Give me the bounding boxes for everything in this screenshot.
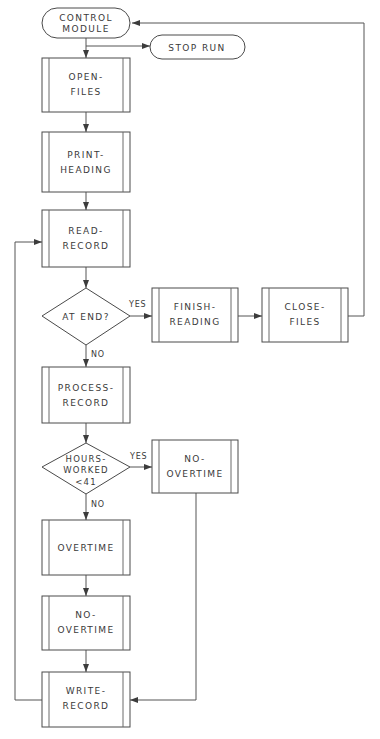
hours-worked-label-line2: WORKED xyxy=(63,465,109,475)
arrowhead-control-to-open xyxy=(83,50,89,58)
close-files-label-line2: FILES xyxy=(289,317,320,327)
node-control-module[interactable]: CONTROL MODULE xyxy=(42,8,130,38)
connector-write-to-read xyxy=(15,242,42,700)
close-files-label-line1: CLOSE- xyxy=(284,302,325,312)
node-process-record[interactable]: PROCESS- RECORD xyxy=(42,367,130,423)
no-overtime-right-shape xyxy=(152,440,238,493)
arrowhead-atend-no xyxy=(83,359,89,367)
arrowhead-close-to-control xyxy=(132,20,140,26)
print-heading-label-line2: HEADING xyxy=(60,165,112,175)
node-open-files[interactable]: OPEN- FILES xyxy=(42,58,130,112)
node-at-end[interactable]: AT END? xyxy=(42,288,130,345)
node-read-record[interactable]: READ- RECORD xyxy=(42,210,130,267)
process-record-shape xyxy=(42,367,130,423)
close-files-shape xyxy=(262,288,348,342)
arrowhead-atend-yes xyxy=(144,313,152,319)
write-record-label-line2: RECORD xyxy=(63,701,110,711)
no-overtime-right-label-line2: OVERTIME xyxy=(166,469,223,479)
arrowhead-overtime-to-nolower xyxy=(83,588,89,596)
control-module-label-line2: MODULE xyxy=(62,24,109,34)
flowchart-svg: CONTROL MODULE STOP RUN OPEN- FILES PRIN… xyxy=(0,0,380,739)
node-print-heading[interactable]: PRINT- HEADING xyxy=(42,132,130,192)
node-hours-worked[interactable]: HOURS- WORKED <41 xyxy=(42,443,130,494)
at-end-label: AT END? xyxy=(62,312,110,322)
connector-close-to-control xyxy=(132,23,364,316)
at-end-no-label: NO xyxy=(91,350,105,359)
hours-worked-label-line3: <41 xyxy=(75,477,97,487)
arrowhead-noright-to-write xyxy=(130,697,138,703)
hours-worked-label-line1: HOURS- xyxy=(66,454,107,464)
print-heading-label-line1: PRINT- xyxy=(67,150,104,160)
open-files-label-line1: OPEN- xyxy=(68,72,103,82)
arrowhead-nolower-to-write xyxy=(83,664,89,672)
overtime-label: OVERTIME xyxy=(57,543,114,553)
node-no-overtime-right[interactable]: NO- OVERTIME xyxy=(152,440,238,493)
process-record-label-line1: PROCESS- xyxy=(58,383,115,393)
at-end-yes-label: YES xyxy=(128,300,146,309)
write-record-label-line1: WRITE- xyxy=(66,686,107,696)
arrowhead-hours-yes xyxy=(144,464,152,470)
control-module-label-line1: CONTROL xyxy=(59,13,113,23)
node-close-files[interactable]: CLOSE- FILES xyxy=(262,288,348,342)
node-finish-reading[interactable]: FINISH- READING xyxy=(152,288,238,342)
read-record-shape xyxy=(42,210,130,267)
no-overtime-lower-label-line2: OVERTIME xyxy=(57,625,114,635)
arrowhead-process-to-hours xyxy=(83,435,89,443)
arrowhead-finish-to-close xyxy=(254,313,262,319)
process-record-label-line2: RECORD xyxy=(63,398,110,408)
node-write-record[interactable]: WRITE- RECORD xyxy=(42,672,130,727)
no-overtime-lower-shape xyxy=(42,596,130,650)
stop-run-label: STOP RUN xyxy=(168,43,225,53)
flowchart-canvas: CONTROL MODULE STOP RUN OPEN- FILES PRIN… xyxy=(0,0,380,739)
node-overtime[interactable]: OVERTIME xyxy=(42,520,130,575)
write-record-shape xyxy=(42,672,130,727)
arrowhead-control-to-stop xyxy=(142,43,150,49)
node-no-overtime-lower[interactable]: NO- OVERTIME xyxy=(42,596,130,650)
open-files-shape xyxy=(42,58,130,112)
finish-reading-label-line2: READING xyxy=(169,317,220,327)
finish-reading-label-line1: FINISH- xyxy=(174,302,217,312)
read-record-label-line2: RECORD xyxy=(63,241,110,251)
arrowhead-print-to-read xyxy=(83,202,89,210)
read-record-label-line1: READ- xyxy=(68,226,103,236)
no-overtime-lower-label-line1: NO- xyxy=(75,610,97,620)
arrowhead-open-to-print xyxy=(83,124,89,132)
node-stop-run[interactable]: STOP RUN xyxy=(150,35,245,59)
print-heading-shape xyxy=(42,132,130,192)
hours-worked-no-label: NO xyxy=(91,500,105,509)
no-overtime-right-label-line1: NO- xyxy=(184,454,206,464)
arrowhead-hours-no xyxy=(83,512,89,520)
finish-reading-shape xyxy=(152,288,238,342)
arrowhead-read-to-atend xyxy=(83,280,89,288)
hours-worked-yes-label: YES xyxy=(129,452,147,461)
arrowhead-write-to-read xyxy=(34,239,42,245)
connector-noright-to-write xyxy=(130,493,196,700)
open-files-label-line2: FILES xyxy=(70,87,101,97)
